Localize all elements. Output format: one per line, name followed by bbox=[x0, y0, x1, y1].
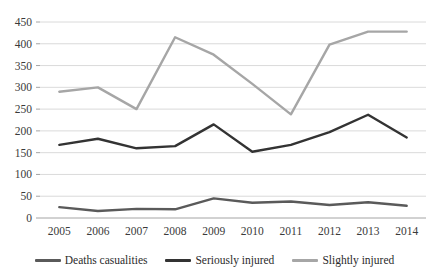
legend-label-slightly-injured: Slightly injured bbox=[322, 254, 394, 266]
data-series bbox=[59, 32, 406, 211]
x-tick-label: 2008 bbox=[164, 225, 187, 237]
y-tick-label: 200 bbox=[15, 125, 33, 137]
legend-label-deaths-casualities: Deaths casualities bbox=[65, 254, 148, 266]
gridlines bbox=[40, 22, 426, 218]
x-tick-label: 2011 bbox=[280, 225, 303, 237]
legend-item-deaths-casualities[interactable]: Deaths casualities bbox=[35, 254, 148, 266]
y-tick-label: 300 bbox=[15, 81, 33, 93]
y-tick-label: 150 bbox=[15, 147, 33, 159]
legend-label-seriously-injured: Seriously injured bbox=[195, 254, 274, 266]
x-tick-label: 2007 bbox=[125, 225, 148, 237]
x-tick-label: 2014 bbox=[395, 225, 418, 237]
series-line-seriously-injured bbox=[59, 115, 406, 152]
legend-swatch-seriously-injured bbox=[165, 259, 191, 262]
legend-swatch-slightly-injured bbox=[292, 259, 318, 262]
x-tick-label: 2012 bbox=[318, 225, 341, 237]
x-tick-label: 2005 bbox=[48, 225, 71, 237]
y-axis-labels: 050100150200250300350400450 bbox=[15, 16, 33, 224]
y-tick-label: 0 bbox=[26, 212, 32, 224]
y-tick-label: 50 bbox=[21, 190, 33, 202]
y-tick-label: 100 bbox=[15, 168, 33, 180]
y-axis-ticks bbox=[36, 22, 40, 218]
y-tick-label: 450 bbox=[15, 16, 33, 28]
y-tick-label: 250 bbox=[15, 103, 33, 115]
legend-item-slightly-injured[interactable]: Slightly injured bbox=[292, 254, 394, 266]
chart-legend: Deaths casualitiesSeriously injuredSligh… bbox=[0, 244, 429, 276]
x-tick-label: 2006 bbox=[86, 225, 109, 237]
y-tick-label: 350 bbox=[15, 60, 33, 72]
line-chart: 050100150200250300350400450 200520062007… bbox=[0, 0, 429, 276]
legend-swatch-deaths-casualities bbox=[35, 259, 61, 262]
plot-area: 050100150200250300350400450 200520062007… bbox=[0, 0, 429, 244]
series-line-deaths-casualities bbox=[59, 198, 406, 211]
y-tick-label: 400 bbox=[15, 38, 33, 50]
x-tick-label: 2009 bbox=[202, 225, 225, 237]
x-tick-label: 2013 bbox=[357, 225, 380, 237]
chart-canvas: 050100150200250300350400450 200520062007… bbox=[0, 0, 429, 244]
legend-item-seriously-injured[interactable]: Seriously injured bbox=[165, 254, 274, 266]
x-tick-label: 2010 bbox=[241, 225, 264, 237]
x-axis-labels: 2005200620072008200920102011201220132014 bbox=[48, 225, 419, 237]
